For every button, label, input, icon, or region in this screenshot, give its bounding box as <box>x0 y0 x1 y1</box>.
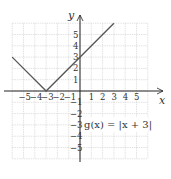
x-tick-label: 5 <box>134 92 139 102</box>
axes <box>4 15 163 162</box>
x-tick-label: 4 <box>123 92 128 102</box>
y-tick-label: −4 <box>70 131 83 141</box>
x-tick-label: 1 <box>89 92 94 102</box>
y-tick-label: 2 <box>73 63 78 73</box>
y-tick-label: −1 <box>70 97 83 107</box>
y-tick-label: 5 <box>73 30 78 40</box>
x-tick-label: 2 <box>100 92 105 102</box>
y-tick-label: −3 <box>70 120 83 130</box>
graph: −5−4−3−2−11234554321−1−2−3−4−5 x y g(x) … <box>0 0 171 179</box>
y-tick-label: 4 <box>73 41 78 51</box>
x-tick-label: 3 <box>111 92 116 102</box>
y-axis-label: y <box>67 9 75 22</box>
y-tick-label: −5 <box>70 143 83 153</box>
y-tick-label: −2 <box>70 109 83 119</box>
x-axis-label: x <box>159 94 166 107</box>
y-tick-label: 1 <box>73 75 78 85</box>
function-label: g(x) = |x + 3| <box>84 119 152 131</box>
